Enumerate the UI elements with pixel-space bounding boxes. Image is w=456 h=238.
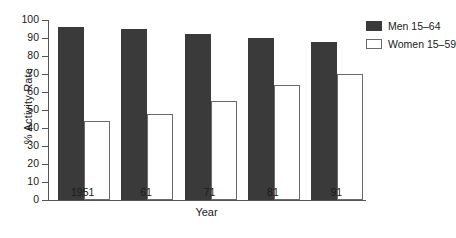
legend-label: Men 15–64 bbox=[388, 20, 441, 32]
bars-container bbox=[49, 20, 366, 200]
plot-area: 0102030405060708090100 bbox=[48, 20, 365, 200]
y-axis-tick: 10 bbox=[42, 182, 48, 183]
y-axis-tick: 50 bbox=[42, 110, 48, 111]
y-axis-tick-label: 100 bbox=[21, 13, 39, 25]
x-axis-title: Year bbox=[48, 206, 365, 218]
bar-men-91 bbox=[311, 42, 337, 200]
y-axis-tick-label: 20 bbox=[27, 157, 39, 169]
x-axis-tick-label: 61 bbox=[121, 186, 171, 198]
y-axis-tick: 60 bbox=[42, 92, 48, 93]
y-axis-tick-label: 60 bbox=[27, 85, 39, 97]
y-axis-tick: 0 bbox=[42, 200, 48, 201]
bar-men-1951 bbox=[58, 27, 84, 200]
bar-men-61 bbox=[121, 29, 147, 200]
y-axis-tick-label: 0 bbox=[33, 193, 39, 205]
y-axis-tick-label: 30 bbox=[27, 139, 39, 151]
y-axis-tick-label: 70 bbox=[27, 67, 39, 79]
bar-men-71 bbox=[185, 34, 211, 200]
y-axis-tick-label: 10 bbox=[27, 175, 39, 187]
bar-women-91 bbox=[337, 74, 363, 200]
y-axis-tick: 90 bbox=[42, 38, 48, 39]
y-axis-tick-label: 50 bbox=[27, 103, 39, 115]
bar-women-81 bbox=[274, 85, 300, 200]
x-axis-tick-label: 91 bbox=[311, 186, 361, 198]
y-axis-tick: 70 bbox=[42, 74, 48, 75]
legend: Men 15–64Women 15–59 bbox=[366, 18, 456, 54]
bar-men-81 bbox=[248, 38, 274, 200]
y-axis-tick: 30 bbox=[42, 146, 48, 147]
y-axis-tick: 100 bbox=[42, 20, 48, 21]
legend-swatch-men bbox=[366, 21, 382, 31]
x-axis-tick-label: 1951 bbox=[58, 186, 108, 198]
y-axis-tick-label: 90 bbox=[27, 31, 39, 43]
x-axis-tick-label: 81 bbox=[248, 186, 298, 198]
legend-item: Men 15–64 bbox=[366, 18, 456, 33]
y-axis-tick: 20 bbox=[42, 164, 48, 165]
legend-swatch-women bbox=[366, 39, 382, 49]
legend-label: Women 15–59 bbox=[388, 38, 456, 50]
y-axis-tick: 40 bbox=[42, 128, 48, 129]
x-axis-line bbox=[48, 200, 366, 201]
y-axis-tick-label: 40 bbox=[27, 121, 39, 133]
x-axis-tick-label: 71 bbox=[185, 186, 235, 198]
y-axis-tick: 80 bbox=[42, 56, 48, 57]
legend-item: Women 15–59 bbox=[366, 36, 456, 51]
y-axis-tick-label: 80 bbox=[27, 49, 39, 61]
